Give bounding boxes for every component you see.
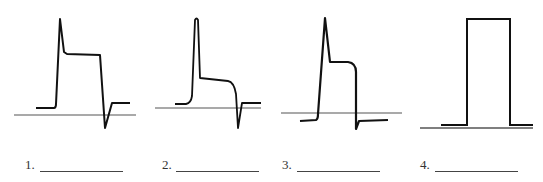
waveform-2 xyxy=(155,19,261,129)
trace-3 xyxy=(300,18,388,129)
label-3: 3. xyxy=(282,158,292,172)
answer-blank-4[interactable] xyxy=(435,171,518,172)
label-4: 4. xyxy=(420,158,430,172)
answer-blank-1[interactable] xyxy=(40,171,123,172)
waveform-diagram xyxy=(0,0,543,182)
answer-blank-2[interactable] xyxy=(176,171,259,172)
waveform-3 xyxy=(281,18,402,129)
waveform-1 xyxy=(14,19,136,128)
label-2: 2. xyxy=(162,158,172,172)
trace-2 xyxy=(175,19,261,129)
label-1: 1. xyxy=(25,158,35,172)
trace-1 xyxy=(36,19,130,128)
answer-blank-3[interactable] xyxy=(297,171,380,172)
trace-4 xyxy=(441,19,533,125)
waveform-4 xyxy=(420,19,533,128)
